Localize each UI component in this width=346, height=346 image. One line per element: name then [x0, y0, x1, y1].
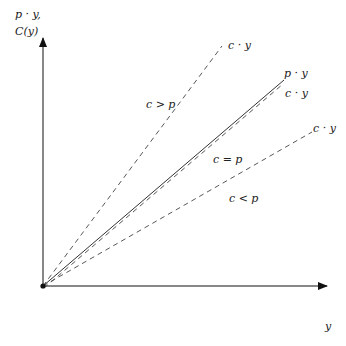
- cost-line-equal: [44, 84, 283, 288]
- x-axis-label: y: [325, 321, 331, 332]
- y-axis-label-line2: C(y): [15, 26, 38, 37]
- revenue-end-label: p · y: [284, 68, 308, 79]
- region-label-c-equal-p: c = p: [213, 154, 242, 165]
- cost-line-high: [43, 46, 222, 286]
- y-axis-label-line1: p · y,: [15, 9, 41, 20]
- origin-point: [40, 283, 45, 288]
- region-label-c-greater-p: c > p: [146, 99, 175, 110]
- cost-low-end-label: c · y: [313, 123, 336, 134]
- cost-line-low: [43, 132, 312, 286]
- cost-high-end-label: c · y: [228, 40, 251, 51]
- diagram-canvas: [0, 0, 346, 346]
- region-label-c-less-p: c < p: [229, 193, 258, 204]
- cost-equal-end-label: c · y: [285, 88, 308, 99]
